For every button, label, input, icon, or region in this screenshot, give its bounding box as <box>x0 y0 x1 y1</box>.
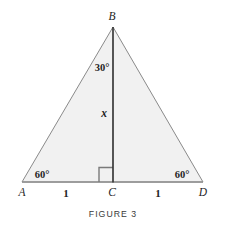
angle-label-abc: 30° <box>95 63 110 74</box>
segment-label-cd: 1 <box>155 188 161 199</box>
figure-caption: FIGURE 3 <box>9 208 217 219</box>
vertex-label-c: C <box>108 187 116 199</box>
segment-label-bc: x <box>101 108 107 120</box>
figure-container: B A C D 30° 60° 60° 1 1 x FIGURE 3 <box>0 0 226 232</box>
vertex-label-a: A <box>18 187 25 199</box>
angle-label-bda: 60° <box>175 170 190 181</box>
angle-label-bad: 60° <box>35 170 50 181</box>
segment-label-ac: 1 <box>63 188 69 199</box>
vertex-label-d: D <box>199 187 207 199</box>
vertex-label-b: B <box>108 11 115 23</box>
